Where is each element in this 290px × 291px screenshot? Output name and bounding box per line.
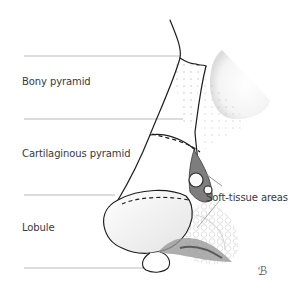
label-lobule: Lobule: [22, 222, 55, 233]
nose-anatomy-diagram: Bony pyramid Cartilaginous pyramid Lobul…: [0, 0, 290, 291]
label-bony-pyramid: Bony pyramid: [22, 76, 91, 87]
nose-illustration: [0, 0, 290, 291]
label-cartilaginous-pyramid: Cartilaginous pyramid: [22, 148, 130, 159]
label-soft-tissue-areas: Soft-tissue areas: [206, 192, 288, 203]
artist-signature: ℬ: [258, 264, 267, 278]
